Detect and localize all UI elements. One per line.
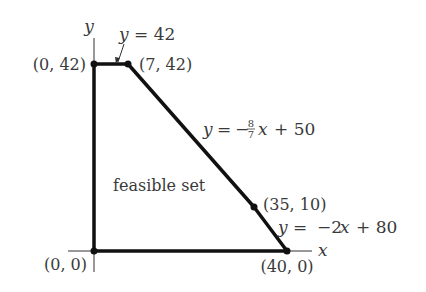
vertex-label-35-10: (35, 10) <box>263 195 326 214</box>
vertex-0-0 <box>91 248 98 255</box>
feasible-region-boundary <box>94 64 287 251</box>
svg-text:y: y <box>202 119 213 139</box>
region-label: feasible set <box>113 176 206 195</box>
x-axis-label: x <box>318 240 328 260</box>
constraint-label-slope-8-7: y = − 8 7 x + 50 <box>202 118 315 140</box>
vertex-label-40-0: (40, 0) <box>260 257 313 276</box>
feasible-set-diagram: y x (0, 42) (7, 42) (35, 10) (0, 0) (40,… <box>0 0 426 292</box>
svg-text:+ 80: + 80 <box>356 217 397 237</box>
vertex-label-0-42: (0, 42) <box>33 55 86 74</box>
svg-text:x: x <box>340 217 350 237</box>
vertex-0-42 <box>91 61 98 68</box>
vertex-label-0-0: (0, 0) <box>44 255 87 274</box>
vertex-35-10 <box>251 204 258 211</box>
vertex-label-7-42: (7, 42) <box>139 55 192 74</box>
svg-text:=: = <box>293 217 307 237</box>
svg-text:8: 8 <box>248 118 254 129</box>
svg-text:=: = <box>217 119 231 139</box>
constraint-label-slope-2: y = −2 x + 80 <box>277 217 397 237</box>
svg-text:y: y <box>277 217 288 237</box>
vertex-7-42 <box>125 61 132 68</box>
svg-text:x: x <box>258 119 268 139</box>
svg-text:+ 50: + 50 <box>274 119 315 139</box>
constraint-label-y-42: y = 42 <box>118 24 175 44</box>
y-axis-label: y <box>83 16 94 36</box>
vertex-40-0 <box>284 248 291 255</box>
svg-text:7: 7 <box>248 129 254 140</box>
svg-text:−2: −2 <box>317 217 342 237</box>
